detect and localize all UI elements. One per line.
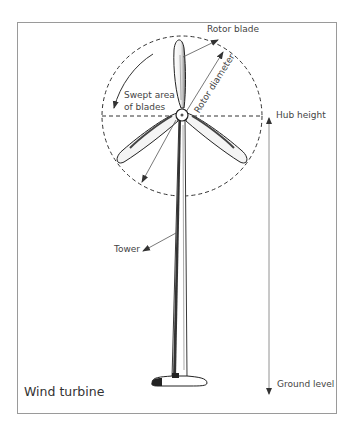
label-swept-area-line2: of blades <box>124 103 165 112</box>
tower-arrow <box>143 233 176 251</box>
diagram-title: Wind turbine <box>24 386 104 399</box>
label-hub-height: Hub height <box>276 111 326 120</box>
label-tower: Tower <box>114 245 140 254</box>
blade-top <box>174 40 186 108</box>
label-rotor-blade: Rotor blade <box>207 25 259 34</box>
diagram-canvas <box>0 0 355 438</box>
wind-turbine-diagram: Rotor blade Rotor diameter Swept area of… <box>0 0 355 438</box>
tower <box>152 118 207 386</box>
label-swept-area-line1: Swept area <box>124 91 175 100</box>
blade-right <box>186 113 247 163</box>
blade-left <box>117 113 178 163</box>
label-ground-level: Ground level <box>277 380 334 389</box>
rotor-blade-arrow <box>183 40 218 57</box>
